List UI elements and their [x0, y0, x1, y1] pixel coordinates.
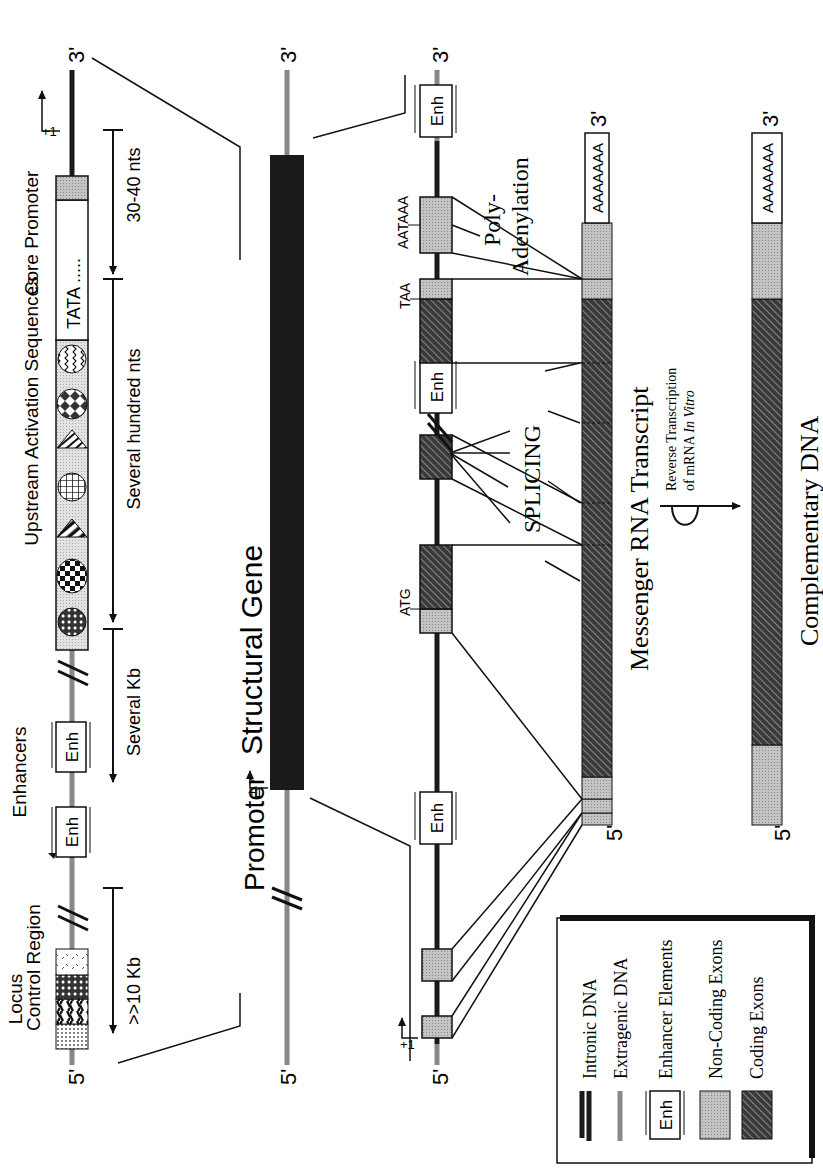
non-coding-exon: [420, 609, 452, 633]
three-prime-label: 3': [276, 47, 301, 63]
legend-item-label: Intronic DNA: [580, 979, 600, 1079]
rt-line2-prefix: of mRNA: [682, 433, 697, 491]
coding-exon: [420, 435, 452, 479]
loop-icon: [672, 506, 698, 525]
rt-line2-italic: In Vitro: [682, 390, 697, 433]
plus-one-label: +1: [42, 124, 57, 139]
five-prime-label: 5': [428, 1069, 453, 1085]
non-coding-region: [752, 745, 782, 825]
distance-uas: Several hundred nts: [124, 348, 144, 509]
five-prime-label: 5': [770, 825, 795, 841]
polyadenylation-line2: Adenylation: [507, 157, 533, 276]
enh-icon-text: Enh: [657, 1100, 676, 1130]
diagram-stage: 5' 3' Locus Control Region Enh Enh: [0, 0, 823, 1171]
non-coding-exon: [582, 279, 612, 299]
taa-label: TAA: [397, 282, 413, 309]
gene-detail-row: 5' 3' +1 Enh ATG Enh TAA: [395, 47, 580, 1085]
mrna-label: Messenger RNA Transcript: [625, 386, 654, 671]
coding-region: [752, 299, 782, 745]
coding-exon-icon: [742, 1091, 772, 1139]
legend-item-label: Extragenic DNA: [611, 958, 631, 1079]
three-prime-label: 3': [758, 111, 783, 127]
five-prime-label: 5': [602, 825, 627, 841]
uas-label: Upstream Activation Sequences: [21, 276, 42, 545]
legend: Intronic DNA Extragenic DNA Enh Enhancer…: [557, 918, 812, 1163]
lcr-label-line2: Control Region: [23, 904, 44, 1031]
enhancer-element: Enh: [48, 807, 90, 859]
three-prime-label: 3': [586, 111, 611, 127]
enhancer-element: Enh: [52, 722, 90, 772]
non-coding-region: [752, 223, 782, 299]
coding-region: [582, 299, 612, 777]
plus-one-label: +1: [248, 785, 263, 800]
enh-label: Enh: [428, 803, 447, 833]
reverse-transcription-annotation: Reverse Transcription of mRNA In Vitro: [660, 368, 740, 525]
overview-row: 5' 3' Promoter Structural Gene +1: [235, 47, 304, 1085]
legend-item-label: Coding Exons: [747, 976, 767, 1079]
coding-exon: [420, 545, 452, 609]
enhancer-element: Enh: [415, 361, 456, 413]
enh-label: Enh: [63, 732, 82, 762]
enh-label: Enh: [63, 817, 82, 847]
non-coding-exon: [420, 279, 452, 299]
three-prime-label: 3': [428, 47, 453, 63]
non-coding-exon: [420, 197, 452, 253]
promoter-detail-row: 5' 3' Locus Control Region Enh Enh: [5, 47, 144, 1085]
splicing-pointers: [450, 363, 580, 581]
upstream-activation-sequences-block: [56, 340, 88, 650]
locus-control-region-block: [56, 949, 88, 1049]
distance-lcr: >>10 Kb: [124, 957, 144, 1025]
core-promoter-label: Core Promoter: [21, 170, 42, 295]
polyadenylation-line1: Poly-: [479, 194, 505, 246]
non-coding-exon: [582, 777, 612, 799]
non-coding-exon: [582, 799, 612, 813]
mrna-transcript: 5' AAAAAAA 3' Messenger RNA Transcript: [582, 111, 654, 841]
gene-expression-diagram: 5' 3' Locus Control Region Enh Enh: [0, 0, 823, 1171]
atg-label: ATG: [397, 588, 413, 616]
first-exon-box: [56, 176, 88, 200]
cdna-label: Complementary DNA: [795, 415, 823, 646]
legend-item-label: Enhancer Elements: [656, 940, 676, 1079]
arrow-icon: [48, 853, 56, 859]
rt-line1: Reverse Transcription: [664, 368, 679, 491]
non-coding-exon: [582, 223, 612, 279]
aataaa-label: AATAAA: [395, 195, 411, 249]
coding-exon: [420, 299, 452, 363]
splice-mapping-lines: [452, 197, 582, 1038]
rt-line2: of mRNA In Vitro: [682, 390, 697, 491]
enhancer-element: Enh: [415, 85, 456, 137]
polyadenylation-pointer: [452, 225, 480, 236]
poly-a-label: AAAAAAA: [589, 143, 606, 213]
tata-label: TATA .....: [64, 258, 84, 329]
enh-label: Enh: [428, 96, 447, 126]
poly-a-label: AAAAAAA: [759, 143, 776, 213]
enh-label: Enh: [428, 372, 447, 402]
non-coding-exon: [422, 949, 452, 981]
cdna: 5' AAAAAAA 3' Complementary DNA: [752, 111, 823, 841]
enhancer-element: Enh: [415, 792, 456, 844]
distance-core: 30-40 nts: [124, 147, 144, 222]
five-prime-label: 5': [64, 1069, 89, 1085]
non-coding-exon-icon: [700, 1091, 730, 1139]
non-coding-exon: [422, 1016, 452, 1038]
plus-one-label: +1: [400, 1037, 415, 1052]
splicing-label: SPLICING: [519, 425, 545, 533]
structural-gene-label: Structural Gene: [235, 545, 268, 755]
distance-enhancers: Several Kb: [124, 668, 144, 756]
structural-gene-block: [270, 155, 304, 790]
five-prime-label: 5': [276, 1069, 301, 1085]
three-prime-label: 3': [64, 47, 89, 63]
enhancers-label: Enhancers: [9, 727, 30, 818]
legend-item-label: Non-Coding Exons: [706, 940, 726, 1080]
zoom-guide-lines: [92, 58, 240, 1063]
distance-arrows: [103, 130, 123, 1033]
non-coding-exon: [582, 813, 612, 825]
